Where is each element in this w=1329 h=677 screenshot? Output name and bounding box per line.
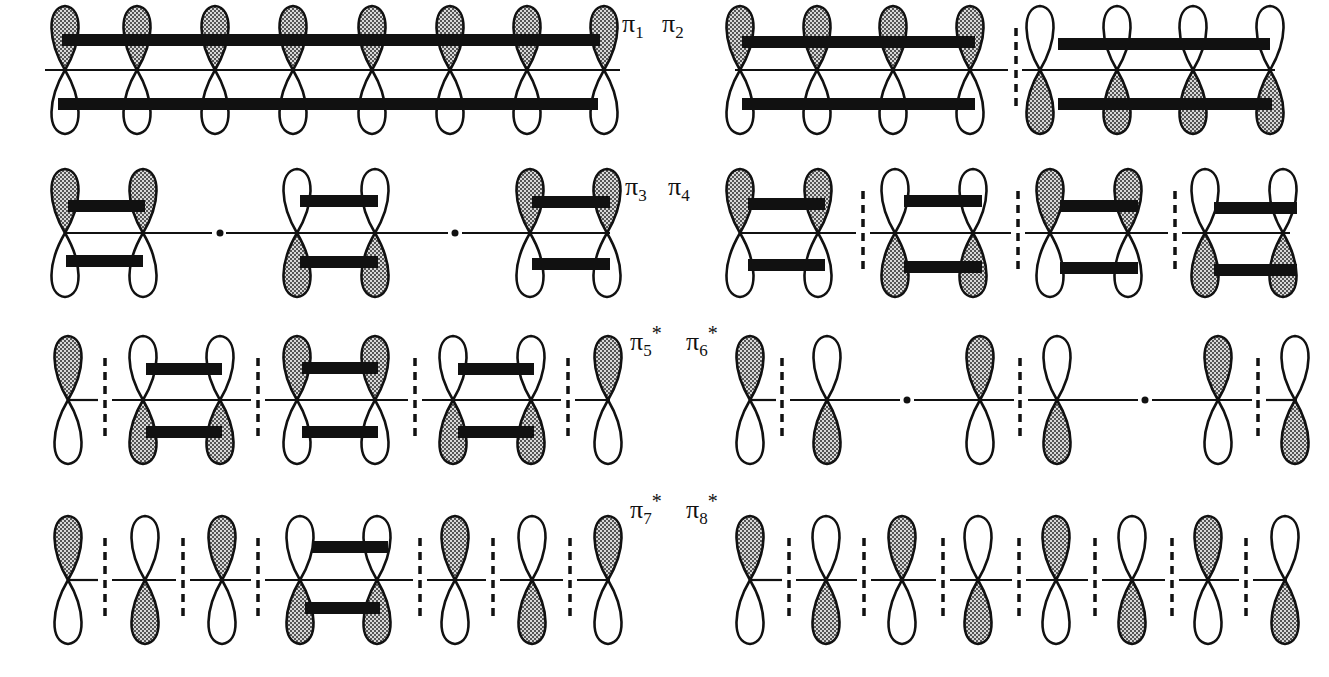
bonding-bar: [1060, 200, 1138, 212]
bonding-bar: [458, 426, 534, 438]
label-pi1: π1: [622, 4, 644, 43]
shaded-lobe: [736, 516, 763, 580]
bonding-bar: [312, 541, 388, 553]
orbital-pi3: [51, 169, 620, 297]
open-lobe: [1191, 169, 1218, 233]
bonding-bar: [300, 256, 378, 268]
open-lobe: [1269, 169, 1296, 233]
open-lobe: [1281, 336, 1308, 400]
label-pi3: π3: [625, 167, 647, 206]
bonding-bar: [1214, 202, 1297, 214]
shaded-lobe: [1204, 336, 1231, 400]
node-dot: [1142, 397, 1149, 404]
shaded-lobe: [813, 400, 840, 464]
node-dot: [904, 397, 911, 404]
shaded-lobe: [888, 516, 915, 580]
open-lobe: [286, 516, 313, 580]
node-dot: [217, 230, 224, 237]
orbital-pi6: [736, 336, 1308, 464]
shaded-lobe: [518, 580, 545, 644]
bonding-bar: [1058, 98, 1272, 110]
open-lobe: [594, 580, 621, 644]
open-lobe: [1271, 516, 1298, 580]
label-pi6-star: π6*: [686, 322, 718, 361]
bonding-bar: [742, 36, 975, 48]
orbital-pi1: [45, 6, 620, 134]
bonding-bar: [458, 363, 534, 375]
bonding-bar: [1060, 262, 1138, 274]
shaded-lobe: [594, 336, 621, 400]
orbital-pi5: [54, 336, 621, 464]
bonding-bar: [66, 255, 143, 267]
bonding-bar: [1214, 264, 1297, 276]
label-pi7-star: π7*: [630, 490, 662, 529]
bonding-bar: [748, 198, 825, 210]
bonding-bar: [305, 602, 380, 614]
orbital-pi8: [736, 516, 1298, 644]
bonding-bar: [146, 363, 222, 375]
node-dot: [452, 230, 459, 237]
bonding-bar: [302, 426, 378, 438]
orbital-pi2: [726, 6, 1283, 134]
open-lobe: [1036, 233, 1063, 297]
open-lobe: [54, 580, 81, 644]
shaded-lobe: [1042, 516, 1069, 580]
shaded-lobe: [964, 580, 991, 644]
shaded-lobe: [131, 580, 158, 644]
label-pi5-star: π5*: [630, 322, 662, 361]
shaded-lobe: [1281, 400, 1308, 464]
shaded-lobe: [1026, 70, 1053, 134]
open-lobe: [888, 580, 915, 644]
open-lobe: [594, 400, 621, 464]
bonding-bar: [532, 196, 610, 208]
shaded-lobe: [208, 516, 235, 580]
open-lobe: [54, 400, 81, 464]
bonding-bar: [748, 259, 825, 271]
label-pi8-star: π8*: [686, 490, 718, 529]
open-lobe: [813, 336, 840, 400]
shaded-lobe: [1271, 580, 1298, 644]
open-lobe: [1026, 6, 1053, 70]
orbital-pi7: [54, 516, 621, 644]
label-pi4: π4: [668, 167, 690, 206]
open-lobe: [736, 400, 763, 464]
bonding-bar: [1058, 38, 1270, 50]
open-lobe: [736, 580, 763, 644]
open-lobe: [441, 580, 468, 644]
orbital-layer: [45, 6, 1309, 644]
shaded-lobe: [736, 336, 763, 400]
shaded-lobe: [1043, 400, 1070, 464]
bonding-bar: [904, 195, 982, 207]
open-lobe: [812, 516, 839, 580]
open-lobe: [1042, 580, 1069, 644]
open-lobe: [1194, 580, 1221, 644]
open-lobe: [964, 516, 991, 580]
shaded-lobe: [812, 580, 839, 644]
bonding-bar: [532, 258, 610, 270]
open-lobe: [208, 580, 235, 644]
shaded-lobe: [54, 336, 81, 400]
open-lobe: [1118, 516, 1145, 580]
bonding-bar: [58, 98, 598, 110]
shaded-lobe: [1036, 169, 1063, 233]
shaded-lobe: [594, 516, 621, 580]
open-lobe: [1204, 400, 1231, 464]
bonding-bar: [300, 195, 378, 207]
bonding-bar: [62, 34, 600, 46]
shaded-lobe: [54, 516, 81, 580]
bonding-bar: [302, 362, 378, 374]
shaded-lobe: [441, 516, 468, 580]
orbital-pi4: [726, 169, 1297, 297]
shaded-lobe: [1118, 580, 1145, 644]
shaded-lobe: [966, 336, 993, 400]
orbital-diagram: [0, 0, 1329, 677]
bonding-bar: [146, 426, 222, 438]
shaded-lobe: [1194, 516, 1221, 580]
bonding-bar: [68, 200, 145, 212]
open-lobe: [131, 516, 158, 580]
label-pi2: π2: [662, 4, 684, 43]
bonding-bar: [742, 98, 975, 110]
open-lobe: [1043, 336, 1070, 400]
bonding-bar: [904, 261, 982, 273]
open-lobe: [518, 516, 545, 580]
